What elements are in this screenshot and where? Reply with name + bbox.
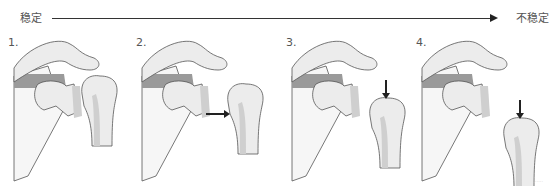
stability-axis-line (52, 18, 492, 19)
watermark: ····· (535, 178, 543, 184)
shoulder-joint-illustration (416, 36, 551, 186)
arrowhead-icon (490, 14, 498, 22)
shoulder-panel-1: 1. (8, 36, 143, 186)
shoulder-joint-illustration (8, 36, 143, 186)
stable-label: 稳定 (20, 9, 42, 25)
unstable-label: 不稳定 (516, 9, 549, 25)
humerus (82, 76, 117, 146)
shoulder-panel-3: 3. (286, 36, 421, 186)
humerus (370, 98, 405, 168)
arrow-down-icon (516, 100, 524, 119)
shoulder-panel-2: 2. (136, 36, 271, 186)
shoulder-joint-illustration (286, 36, 421, 186)
humerus (228, 84, 263, 154)
shoulder-joint-illustration (136, 36, 271, 186)
stability-scale: 稳定 不稳定 (0, 8, 557, 28)
humerus (504, 118, 539, 186)
shoulder-panel-4: 4. (416, 36, 551, 186)
arrow-down-icon (382, 80, 390, 99)
